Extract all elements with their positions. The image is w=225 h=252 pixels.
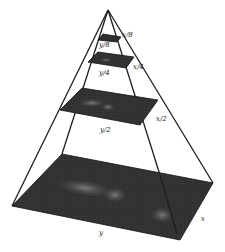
pyramid-svg — [0, 0, 225, 252]
image-pyramid-diagram: x/8 y/8 x/4 y/4 x/2 y/2 x y — [0, 0, 225, 252]
pyramid-level-0 — [12, 154, 213, 240]
level-2-height-label: x/4 — [133, 64, 144, 71]
level-2-width-label: y/4 — [99, 70, 110, 77]
level-0-width-label: y — [99, 230, 103, 237]
level-3-width-label: y/8 — [99, 42, 110, 49]
pyramid-level-1 — [60, 88, 158, 125]
pyramid-level-2 — [88, 52, 134, 68]
level-3-height-label: x/8 — [122, 32, 133, 39]
level-1-width-label: y/2 — [100, 127, 111, 134]
level-0-height-label: x — [201, 216, 205, 223]
level-1-height-label: x/2 — [156, 116, 167, 123]
